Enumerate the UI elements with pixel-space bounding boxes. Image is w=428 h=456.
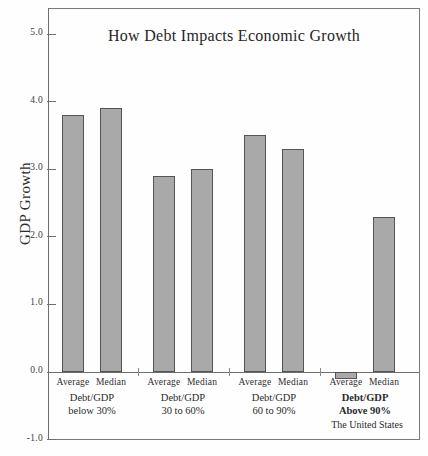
group-label-4: Debt/GDPAbove 90% [310, 392, 420, 417]
x-axis-zero-line [48, 372, 420, 373]
bar-average-group-2 [153, 176, 175, 372]
chart-figure: How Debt Impacts Economic Growth GDP Gro… [0, 0, 428, 456]
y-tick-mark [47, 439, 56, 440]
bar-label-median: Median [265, 377, 321, 387]
y-tick-mark [47, 101, 56, 102]
y-tick-mark [47, 236, 56, 237]
y-axis-tick: 2.0 [0, 237, 56, 238]
chart-title: How Debt Impacts Economic Growth [48, 27, 420, 45]
y-axis-tick: 1.0 [0, 304, 56, 305]
bar-median-group-3 [282, 149, 304, 372]
x-axis-group-tick [138, 368, 139, 376]
y-tick-label: 5.0 [30, 27, 43, 37]
x-axis-group-tick [320, 368, 321, 376]
bar-median-group-4 [373, 217, 395, 372]
y-axis-tick: 5.0 [0, 34, 56, 35]
y-axis-tick: 0.0 [0, 372, 56, 373]
y-tick-mark [47, 304, 56, 305]
y-axis-tick: 3.0 [0, 169, 56, 170]
y-tick-mark [47, 34, 56, 35]
y-tick-label: 3.0 [30, 162, 43, 172]
bar-median-group-1 [100, 108, 122, 372]
y-tick-mark [47, 372, 56, 373]
y-axis-tick: 4.0 [0, 102, 56, 103]
x-axis-group-tick [229, 368, 230, 376]
bar-label-median: Median [356, 377, 412, 387]
bar-label-median: Median [83, 377, 139, 387]
y-axis-title: GDP Growth [17, 124, 34, 284]
y-tick-label: 4.0 [30, 95, 43, 105]
bar-average-group-1 [62, 115, 84, 372]
y-tick-label: 1.0 [30, 297, 43, 307]
bar-median-group-2 [191, 169, 213, 372]
y-tick-label: 0.0 [30, 365, 43, 375]
y-tick-mark [47, 169, 56, 170]
y-axis-line [48, 8, 49, 440]
group-note-4: The United States [307, 419, 427, 430]
bar-label-median: Median [174, 377, 230, 387]
group-label-line2: Above 90% [310, 405, 420, 418]
group-label-line1: Debt/GDP [310, 392, 420, 405]
y-tick-label: 2.0 [30, 230, 43, 240]
y-tick-label: -1.0 [27, 433, 43, 443]
y-axis-tick: -1.0 [0, 440, 56, 441]
bar-average-group-3 [244, 135, 266, 372]
